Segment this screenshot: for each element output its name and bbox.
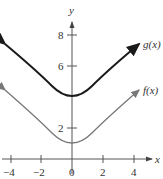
g-label: g(x): [143, 38, 161, 51]
x-tick-label-0: 0: [69, 166, 75, 178]
x-tick-label-neg4: −4: [3, 166, 15, 178]
y-tick-label-8: 8: [58, 29, 64, 41]
y-tick-label-6: 6: [58, 60, 64, 72]
y-tick-label-2: 2: [58, 122, 64, 134]
x-tick-label-neg2: −2: [33, 166, 45, 178]
x-axis-label: x: [154, 153, 160, 165]
x-tick-label-2: 2: [100, 166, 106, 178]
y-axis-label: y: [68, 4, 74, 16]
x-tick-label-4: 4: [131, 166, 137, 178]
f-label: f(x): [143, 84, 159, 97]
chart-svg: y x g(x) f(x) 2 6 8 −4 −2 0 2 4: [0, 0, 163, 179]
chart: y x g(x) f(x) 2 6 8 −4 −2 0 2 4: [0, 0, 163, 179]
